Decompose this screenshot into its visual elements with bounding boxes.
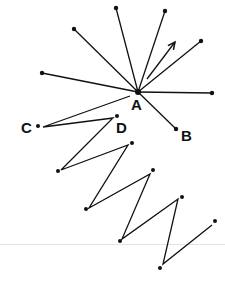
ray-line (74, 29, 138, 92)
label-b: B (181, 128, 192, 143)
zigzag-dot (151, 168, 155, 172)
zigzag-dot (130, 141, 134, 145)
center-dot-a (135, 89, 141, 95)
zigzag-path (43, 96, 212, 264)
ray-dot (174, 127, 178, 131)
ray-line (138, 92, 176, 129)
ray-line (42, 73, 138, 92)
zigzag-dot (213, 219, 217, 223)
ray-dot (114, 6, 118, 10)
label-c: C (21, 120, 32, 135)
ray-dot (210, 91, 214, 95)
zigzag-line (43, 96, 212, 264)
zigzag-dot (36, 124, 40, 128)
ray-dot (199, 39, 203, 43)
ray-line (138, 92, 212, 93)
label-a: A (131, 97, 142, 112)
zigzag-dot (158, 266, 162, 270)
ray-lines (42, 8, 212, 129)
zigzag-dot (180, 195, 184, 199)
ray-dot (163, 9, 167, 13)
zigzag-dot (56, 169, 60, 173)
label-d: D (116, 120, 127, 135)
zigzag-dot (115, 114, 119, 118)
ray-dot (40, 71, 44, 75)
ray-line (116, 8, 138, 92)
ray-line (138, 11, 165, 92)
zigzag-dot (118, 239, 122, 243)
zigzag-dot (84, 207, 88, 211)
ray-dot (72, 27, 76, 31)
